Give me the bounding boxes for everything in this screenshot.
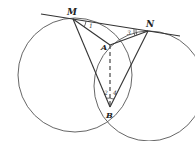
tangent-line-MN	[41, 14, 180, 36]
angle-label-1: 1	[89, 22, 93, 29]
angle-label-4: 4	[112, 89, 117, 96]
point-label-B: B	[105, 110, 113, 120]
point-label-M: M	[66, 7, 78, 17]
angle-mark-4	[110, 98, 114, 99]
point-label-A: A	[100, 42, 107, 52]
angle-label-3: 3	[127, 29, 131, 36]
left-circle	[18, 18, 132, 132]
angle-label-2: 2	[103, 89, 108, 96]
angle-mark-1	[84, 21, 86, 27]
point-label-N: N	[145, 19, 155, 29]
right-circle	[94, 31, 195, 141]
geometry-diagram: M N A B 1 3 2 4	[0, 0, 195, 141]
